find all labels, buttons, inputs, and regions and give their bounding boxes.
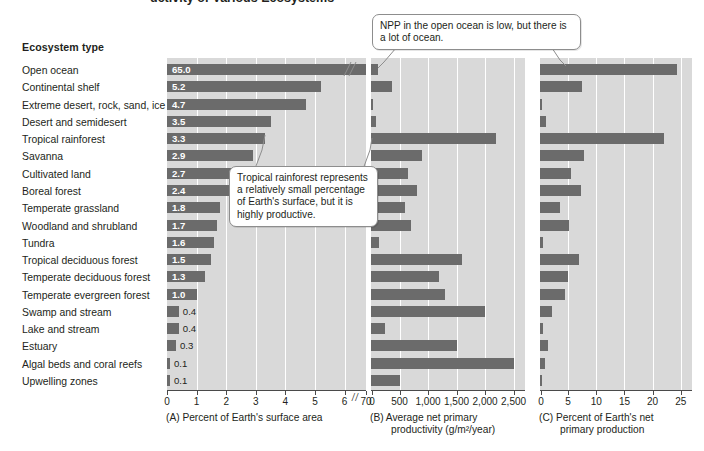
figure-root: uctivity of Various Ecosystems Ecosystem… bbox=[0, 0, 704, 451]
bar-break-slashes bbox=[0, 0, 704, 451]
